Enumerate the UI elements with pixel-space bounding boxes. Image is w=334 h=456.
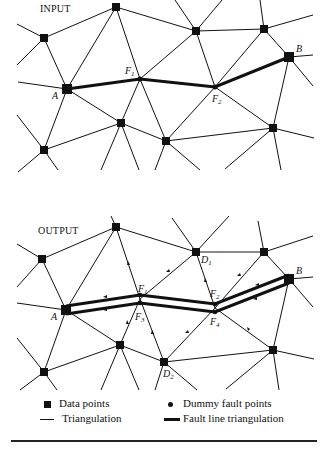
dummy-fault-point-dot-icon [168,402,173,407]
label-F2: F2 [209,288,220,301]
output-triangulation-diagram: A B F1 F3 F2 F4 D1 D2 [0,0,334,400]
label-B: B [296,265,302,276]
fault-line-thick-icon [164,418,180,421]
label-D2: D2 [162,368,174,381]
output-fault-line [66,275,289,314]
legend-dummy-fault-points: Dummy fault points [166,397,272,409]
label-F4: F4 [209,316,220,329]
data-point-square-icon [44,401,51,408]
label-A: A [50,311,58,322]
legend-data-points: Data points [44,397,109,409]
label-D1: D1 [200,254,212,267]
label-F3: F3 [134,311,145,324]
legend-triangulation: Triangulation [40,412,122,424]
legend-fault-line-triangulation: Fault line triangulation [164,412,284,424]
triangulation-line-icon [40,419,54,420]
bottom-rule-divider [11,440,317,442]
